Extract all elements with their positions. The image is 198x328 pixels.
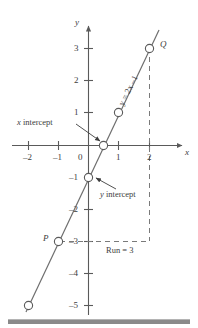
ytick-label-neg5: –5 (69, 301, 78, 310)
graph-figure: y x –2 –1 0 1 2 3 2 1 –1 –2 –3 –4 –5 P Q… (0, 0, 198, 328)
xtick-label-0: 0 (78, 153, 83, 162)
x-intercept-annotation: x intercept (17, 118, 53, 127)
ytick-label-neg3: –3 (69, 237, 78, 246)
ytick-label-neg2: –2 (69, 205, 78, 214)
run-label: Run = 3 (106, 246, 133, 255)
function-line (26, 30, 159, 312)
ytick-label-1: 1 (74, 108, 79, 117)
ytick-label-2: 2 (74, 76, 79, 85)
ytick-label-neg4: –4 (69, 269, 78, 278)
xtick-label-1: 1 (116, 153, 121, 162)
xtick-label-neg1: –1 (53, 153, 62, 162)
y-axis-label: y (75, 18, 79, 27)
ytick-label-neg1: –1 (69, 173, 78, 182)
bottom-rule (8, 319, 190, 324)
point-x-intercept (99, 141, 107, 149)
ytick-label-3: 3 (74, 44, 79, 53)
x-intercept-annotation-text: intercept (21, 117, 53, 127)
xtick-label-2: 2 (147, 153, 152, 162)
point-P (54, 237, 62, 245)
point-bottom (24, 301, 32, 309)
point-label-Q: Q (160, 40, 167, 49)
point-label-P: P (43, 234, 49, 243)
point-one-one (114, 108, 122, 116)
xtick-label-neg2: –2 (23, 153, 32, 162)
coordinate-plane-svg (0, 0, 198, 328)
y-intercept-annotation-text: intercept (104, 189, 136, 199)
y-intercept-annotation: y intercept (100, 190, 136, 199)
x-axis-label: x (185, 148, 189, 157)
y-intercept-leader (96, 178, 116, 189)
point-y-intercept (84, 173, 92, 181)
point-Q (145, 44, 153, 52)
